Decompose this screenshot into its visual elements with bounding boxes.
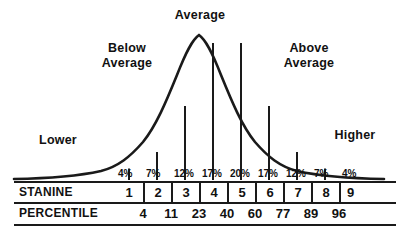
label-higher: Higher bbox=[325, 128, 385, 143]
percentile-value-23: 23 bbox=[186, 206, 212, 221]
stanine-cell-6: 6 bbox=[255, 183, 283, 202]
label-below-average: Below Average bbox=[96, 41, 158, 71]
percentile-value-4: 4 bbox=[130, 206, 156, 221]
percent-cell-3: 12% bbox=[171, 166, 199, 181]
stanine-cell-9: 9 bbox=[339, 183, 367, 202]
percent-cell-2: 7% bbox=[143, 166, 171, 181]
percent-row: 4%7%12%17%20%17%12%7%4% bbox=[115, 166, 367, 181]
stanine-distribution-chart: Average Below Average Above Average Lowe… bbox=[0, 0, 410, 237]
stanine-cell-4: 4 bbox=[199, 183, 227, 202]
percentile-row: PERCENTILE 411234060778996 bbox=[14, 204, 396, 224]
percent-cell-7: 12% bbox=[283, 166, 311, 181]
label-above-average: Above Average bbox=[276, 41, 342, 71]
percentile-value-60: 60 bbox=[242, 206, 268, 221]
percent-cell-4: 17% bbox=[199, 166, 227, 181]
stanine-row: STANINE 123456789 bbox=[14, 183, 396, 202]
percent-cell-8: 7% bbox=[311, 166, 339, 181]
stanine-cell-1: 1 bbox=[115, 183, 143, 202]
percentile-value-11: 11 bbox=[158, 206, 184, 221]
label-lower: Lower bbox=[30, 133, 86, 148]
stanine-cell-8: 8 bbox=[311, 183, 339, 202]
percentile-row-title: PERCENTILE bbox=[19, 206, 98, 220]
rule-below-percentile bbox=[14, 224, 396, 226]
percent-cell-6: 17% bbox=[255, 166, 283, 181]
percentile-value-40: 40 bbox=[214, 206, 240, 221]
percentile-value-77: 77 bbox=[270, 206, 296, 221]
percent-cell-5: 20% bbox=[227, 166, 255, 181]
label-average: Average bbox=[168, 8, 232, 23]
stanine-cells: 123456789 bbox=[115, 183, 367, 202]
stanine-cell-2: 2 bbox=[143, 183, 171, 202]
stanine-cell-7: 7 bbox=[283, 183, 311, 202]
percent-cell-9: 4% bbox=[339, 166, 367, 181]
stanine-row-title: STANINE bbox=[19, 185, 73, 199]
percent-cell-1: 4% bbox=[115, 166, 143, 181]
percentile-value-89: 89 bbox=[298, 206, 324, 221]
stanine-cell-5: 5 bbox=[227, 183, 255, 202]
percentile-value-96: 96 bbox=[326, 206, 352, 221]
stanine-cell-3: 3 bbox=[171, 183, 199, 202]
